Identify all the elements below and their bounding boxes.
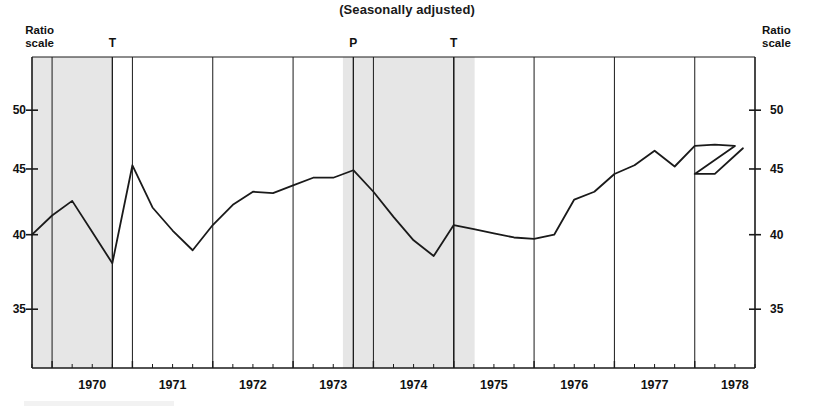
turning-point-marker-T: T — [109, 36, 116, 50]
chart-figure: (Seasonally adjusted) Ratio scale Ratio … — [0, 0, 814, 410]
y-tick-label-right: 50 — [770, 103, 810, 117]
x-tick-label-1970: 1970 — [78, 378, 106, 392]
y-tick-label-right: 35 — [770, 302, 810, 316]
x-tick-label-1973: 1973 — [319, 378, 347, 392]
x-tick-label-1976: 1976 — [560, 378, 588, 392]
year-divider-lines — [52, 57, 695, 368]
turning-point-marker-P: P — [349, 36, 357, 50]
x-tick-label-1972: 1972 — [239, 378, 267, 392]
y-tick-label-left: 45 — [0, 162, 26, 176]
page-edge-artifact — [24, 401, 174, 406]
y-tick-label-right: 40 — [770, 228, 810, 242]
x-tick-label-1978: 1978 — [721, 378, 749, 392]
x-tick-label-1974: 1974 — [400, 378, 428, 392]
x-tick-label-1975: 1975 — [480, 378, 508, 392]
y-tick-label-right: 45 — [770, 162, 810, 176]
y-tick-label-left: 40 — [0, 228, 26, 242]
x-tick-label-1977: 1977 — [641, 378, 669, 392]
turning-point-marker-T: T — [450, 36, 457, 50]
y-tick-label-left: 50 — [0, 103, 26, 117]
y-tick-label-left: 35 — [0, 302, 26, 316]
recession-shading-group — [32, 57, 475, 368]
chart-plot-area — [0, 0, 814, 410]
x-tick-label-1971: 1971 — [159, 378, 187, 392]
